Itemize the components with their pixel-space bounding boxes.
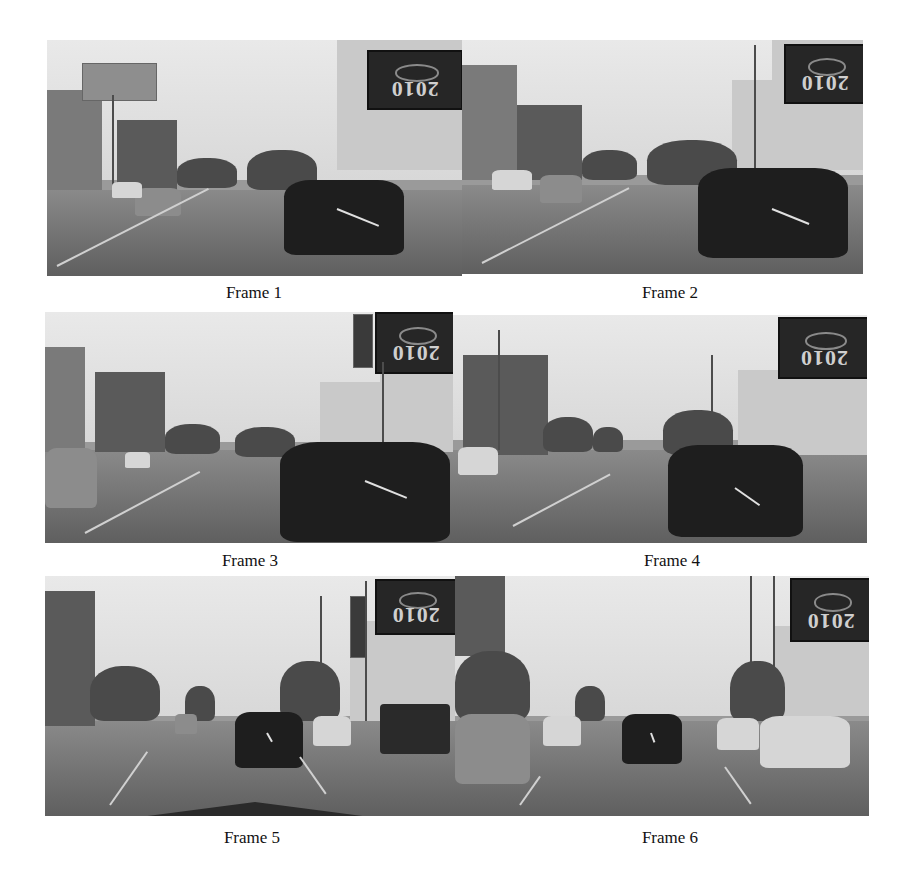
car — [540, 175, 582, 203]
frame-2-image: 2010 — [462, 40, 863, 274]
billboard: 2010 — [375, 579, 455, 635]
billboard: 2010 — [778, 317, 867, 379]
frame-6-image: 2010 — [455, 576, 869, 816]
car — [45, 448, 97, 508]
car — [125, 452, 150, 468]
car — [175, 714, 197, 734]
frame-6-caption: Frame 6 — [590, 828, 750, 848]
billboard: 2010 — [367, 50, 462, 110]
overhead-sign — [82, 63, 157, 101]
car — [455, 714, 530, 784]
car — [492, 170, 532, 190]
car — [112, 182, 142, 198]
car — [313, 716, 351, 746]
pedestrians — [380, 704, 450, 754]
car — [458, 447, 498, 475]
lead-car — [668, 445, 803, 537]
billboard: 2010 — [375, 312, 453, 374]
frame-1-image: 2010 — [47, 40, 462, 276]
lead-car — [280, 442, 450, 542]
frame-4-caption: Frame 4 — [592, 551, 752, 571]
frame-4-image: 2010 — [453, 315, 867, 543]
frame-2-caption: Frame 2 — [590, 283, 750, 303]
lead-car — [698, 168, 848, 258]
frame-5-image: 2010 — [45, 576, 455, 816]
frame-3-image: 2010 — [45, 312, 453, 543]
car — [760, 716, 850, 768]
frame-1-caption: Frame 1 — [174, 283, 334, 303]
lead-car — [284, 180, 404, 255]
car — [543, 716, 581, 746]
frame-3-caption: Frame 3 — [170, 551, 330, 571]
car — [717, 718, 759, 750]
billboard: 2010 — [790, 578, 869, 642]
frame-5-caption: Frame 5 — [172, 828, 332, 848]
billboard: 2010 — [784, 44, 863, 104]
